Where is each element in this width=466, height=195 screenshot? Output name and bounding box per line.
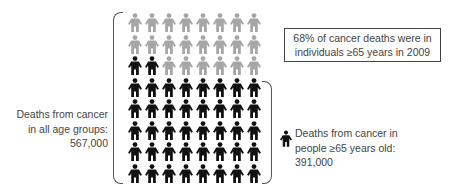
callout-line-2: individuals ≥65 years in 2009: [285, 45, 440, 59]
person-icon-gray: [179, 56, 193, 75]
person-icon-black: [213, 78, 227, 97]
legend-line-1: Deaths from cancer in: [295, 126, 425, 141]
person-icon-black: [145, 142, 159, 161]
person-icon-black: [196, 78, 210, 97]
person-icon-black: [145, 121, 159, 140]
person-icon-black: [196, 142, 210, 161]
person-icon-gray: [145, 35, 159, 54]
person-icon-black: [145, 78, 159, 97]
person-icon-black: [179, 142, 193, 161]
bracket-65-plus: [262, 81, 272, 184]
person-icon-gray: [179, 35, 193, 54]
person-icon-black: [247, 121, 261, 140]
person-icon-gray: [213, 35, 227, 54]
person-icon-black: [230, 99, 244, 118]
person-icon-gray: [196, 13, 210, 32]
callout-box: 68% of cancer deaths were in individuals…: [284, 28, 441, 62]
person-icon-black: [162, 142, 176, 161]
person-icon-gray: [196, 56, 210, 75]
person-icon-gray: [196, 35, 210, 54]
all-ages-label-line-2: in all age groups:: [0, 122, 108, 137]
callout-line-1: 68% of cancer deaths were in: [285, 31, 440, 45]
person-icon: [280, 130, 292, 147]
person-icon-gray: [162, 56, 176, 75]
person-icon-black: [230, 164, 244, 183]
person-icon-black: [213, 142, 227, 161]
person-icon-gray: [247, 13, 261, 32]
person-icon-black: [162, 164, 176, 183]
person-icon-black: [145, 56, 159, 75]
person-icon-black: [128, 121, 142, 140]
person-icon-black: [247, 99, 261, 118]
all-ages-label: Deaths from cancer in all age groups: 56…: [0, 107, 108, 151]
person-icon-gray: [128, 35, 142, 54]
person-icon-black: [128, 99, 142, 118]
person-icon-gray: [247, 35, 261, 54]
person-icon-black: [145, 99, 159, 118]
person-icon-black: [196, 164, 210, 183]
icon-grid: [128, 13, 264, 185]
person-icon-gray: [179, 13, 193, 32]
person-icon-gray: [230, 13, 244, 32]
person-icon-gray: [230, 56, 244, 75]
person-icon-black: [128, 56, 142, 75]
person-icon-black: [196, 121, 210, 140]
legend-value: 391,000: [295, 155, 425, 170]
person-icon-gray: [128, 13, 142, 32]
person-icon-gray: [145, 13, 159, 32]
person-icon-black: [230, 78, 244, 97]
person-icon-black: [213, 121, 227, 140]
person-icon-gray: [213, 13, 227, 32]
person-icon-gray: [162, 13, 176, 32]
person-icon-black: [162, 78, 176, 97]
person-icon-gray: [213, 56, 227, 75]
all-ages-label-value: 567,000: [0, 136, 108, 151]
person-icon-black: [145, 164, 159, 183]
person-icon-black: [196, 99, 210, 118]
person-icon-black: [179, 121, 193, 140]
person-icon-black: [213, 164, 227, 183]
person-icon-gray: [162, 35, 176, 54]
legend-line-2: people ≥65 years old:: [295, 141, 425, 156]
person-icon-black: [247, 78, 261, 97]
person-icon-black: [179, 78, 193, 97]
person-icon-black: [162, 121, 176, 140]
person-icon-gray: [247, 56, 261, 75]
person-icon-black: [128, 142, 142, 161]
all-ages-label-line-1: Deaths from cancer: [0, 107, 108, 122]
person-icon-black: [162, 99, 176, 118]
person-icon-black: [128, 78, 142, 97]
person-icon-black: [179, 164, 193, 183]
person-icon-gray: [230, 35, 244, 54]
person-icon-black: [230, 142, 244, 161]
person-icon-black: [213, 99, 227, 118]
person-icon-black: [128, 164, 142, 183]
person-icon-black: [179, 99, 193, 118]
person-icon-black: [247, 142, 261, 161]
person-icon-black: [230, 121, 244, 140]
person-icon-black: [247, 164, 261, 183]
bracket-all-ages: [113, 12, 123, 184]
